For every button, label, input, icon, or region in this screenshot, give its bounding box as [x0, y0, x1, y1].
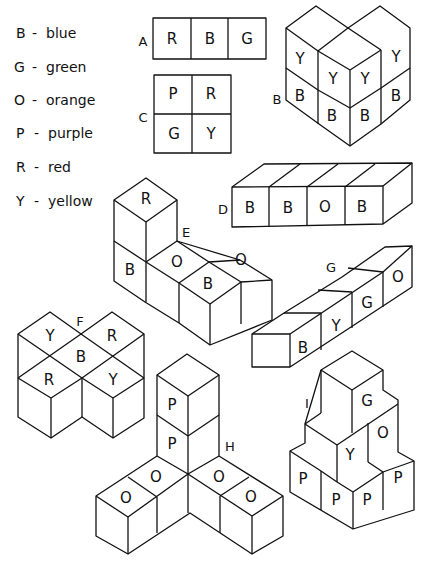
face-letter: G: [241, 30, 253, 48]
legend-sep: -: [32, 92, 37, 108]
face-letter: O: [171, 253, 183, 271]
legend-sep: -: [32, 25, 37, 41]
face-letter: B: [283, 199, 293, 217]
figure-label: G: [326, 260, 336, 275]
face-letter: O: [120, 489, 132, 507]
legend-color: green: [46, 59, 86, 75]
legend-item: O - orange: [14, 92, 95, 108]
legend-item: Y - yellow: [15, 193, 93, 209]
legend-code: P: [16, 125, 24, 141]
figure-label: B: [273, 92, 282, 107]
face-letter: Y: [205, 125, 216, 143]
face-letter: R: [44, 371, 54, 389]
face-letter: Y: [330, 317, 341, 335]
face-letter: B: [298, 339, 308, 357]
face-letter: R: [206, 85, 216, 103]
figure-d: D B B O B: [218, 163, 412, 227]
face-letter: P: [168, 85, 177, 103]
face-letter: B: [391, 87, 401, 105]
figure-g: G B Y G O: [252, 246, 412, 367]
face-letter: R: [167, 30, 177, 48]
face-letter: B: [125, 261, 135, 279]
face-letter: Y: [359, 70, 370, 88]
face-letter: P: [298, 470, 307, 488]
face-letter: O: [377, 424, 389, 442]
figure-label: H: [225, 439, 235, 454]
figure-a: A R B G: [139, 18, 266, 59]
face-letter: P: [167, 396, 176, 414]
legend-code: G: [14, 59, 25, 75]
legend-sep: -: [34, 125, 39, 141]
face-letter: P: [362, 491, 371, 509]
face-letter: Y: [344, 446, 355, 464]
face-letter: O: [319, 198, 331, 216]
figure-label: F: [76, 314, 83, 329]
face-letter: O: [150, 468, 162, 486]
legend-item: P - purple: [16, 125, 93, 141]
face-letter: G: [361, 392, 373, 410]
legend-item: R - red: [16, 159, 71, 175]
legend-item: B - blue: [16, 25, 76, 41]
face-letter: O: [392, 268, 404, 286]
face-letter: P: [393, 469, 402, 487]
face-letter: Y: [390, 48, 401, 66]
legend-code: B: [16, 25, 26, 41]
color-legend: B - blue G - green O - orange P - purple…: [14, 25, 95, 209]
face-letter: B: [357, 198, 367, 216]
cube-puzzle-worksheet: B - blue G - green O - orange P - purple…: [0, 0, 428, 570]
legend-color: yellow: [48, 193, 93, 209]
face-letter: B: [203, 275, 213, 293]
face-letter: G: [168, 125, 180, 143]
face-letter: O: [235, 251, 247, 269]
legend-sep: -: [34, 193, 39, 209]
face-letter: Y: [294, 50, 305, 68]
figure-label: A: [139, 34, 148, 49]
face-letter: B: [76, 348, 86, 366]
face-letter: Y: [44, 327, 55, 345]
figure-label: I: [305, 396, 309, 411]
face-letter: B: [327, 107, 337, 125]
face-letter: R: [107, 327, 117, 345]
figure-label: C: [138, 110, 147, 125]
legend-color: red: [48, 159, 71, 175]
figure-label: D: [218, 202, 228, 217]
legend-color: purple: [48, 125, 93, 141]
legend-color: orange: [46, 92, 95, 108]
face-letter: Y: [107, 371, 118, 389]
figure-i: I G O Y P P P P: [290, 351, 414, 529]
face-letter: O: [213, 468, 225, 486]
face-letter: B: [295, 87, 305, 105]
face-letter: Y: [327, 70, 338, 88]
legend-item: G - green: [14, 59, 86, 75]
legend-code: O: [14, 92, 25, 108]
legend-sep: -: [34, 159, 39, 175]
face-letter: R: [141, 190, 151, 208]
legend-code: Y: [15, 193, 25, 209]
face-letter: P: [167, 435, 176, 453]
legend-sep: -: [32, 59, 37, 75]
face-letter: B: [205, 30, 215, 48]
face-letter: B: [360, 107, 370, 125]
face-letter: O: [245, 488, 257, 506]
face-letter: P: [331, 491, 340, 509]
legend-color: blue: [46, 25, 76, 41]
figure-f: F Y R B R Y: [18, 312, 144, 438]
face-letter: B: [245, 199, 255, 217]
legend-code: R: [16, 159, 26, 175]
figure-b: B Y Y Y Y B B B B: [273, 6, 410, 146]
figure-c: C P R G Y: [138, 75, 231, 153]
face-letter: G: [361, 294, 373, 312]
figure-label: E: [182, 225, 190, 240]
